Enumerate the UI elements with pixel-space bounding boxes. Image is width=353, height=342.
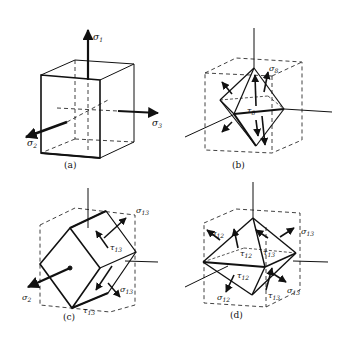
svg-text:σ2: σ2 xyxy=(27,138,37,149)
svg-text:σ13: σ13 xyxy=(120,285,133,295)
panel-a-labels: σ1 σ3 σ2 (a) xyxy=(27,32,162,170)
svg-text:σ2: σ2 xyxy=(22,293,31,303)
panel-d-dodecahedron xyxy=(185,182,328,307)
svg-text:τ13: τ13 xyxy=(110,243,122,253)
caption-d: (d) xyxy=(230,310,243,320)
panel-c-labels: σ13 τ13 σ2 σ13 τ13 (c) xyxy=(22,206,149,322)
sigma3-arrow xyxy=(118,111,158,113)
svg-text:σ8: σ8 xyxy=(269,64,278,74)
svg-text:τ12: τ12 xyxy=(240,249,252,259)
caption-b: (b) xyxy=(232,160,245,170)
panel-a-cube xyxy=(26,30,158,158)
svg-text:σ13: σ13 xyxy=(301,227,314,237)
svg-text:σ1: σ1 xyxy=(93,32,103,43)
svg-text:σ3: σ3 xyxy=(152,118,162,129)
svg-text:σ13: σ13 xyxy=(287,286,300,296)
panel-b-octahedron xyxy=(185,28,332,153)
caption-a: (a) xyxy=(64,160,76,170)
svg-text:τ8: τ8 xyxy=(247,106,255,116)
svg-text:σ12: σ12 xyxy=(211,229,224,239)
svg-text:τ13: τ13 xyxy=(83,306,95,316)
svg-text:τ13: τ13 xyxy=(268,291,280,301)
svg-text:σ13: σ13 xyxy=(136,206,149,216)
svg-text:τ13: τ13 xyxy=(263,248,275,258)
svg-text:τ12: τ12 xyxy=(237,271,249,281)
caption-c: (c) xyxy=(63,312,75,322)
sigma2-arrow xyxy=(26,122,67,137)
stress-state-figure: σ1 σ3 σ2 (a) xyxy=(0,0,353,342)
svg-text:σ12: σ12 xyxy=(217,293,230,303)
